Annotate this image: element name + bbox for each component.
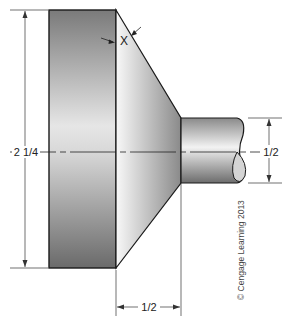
- drawing-canvas: 2 1/4 1/2 1/2 X © Cengage Learning 2013: [0, 0, 285, 323]
- angle-label: X: [120, 34, 128, 48]
- taper-section: [116, 10, 181, 268]
- break-symbol: [233, 152, 246, 182]
- shaft-diameter-label: 1/2: [263, 146, 278, 158]
- arrow-right-icon: [173, 305, 180, 310]
- large-cylinder: [49, 10, 116, 268]
- arrow-down-icon: [267, 175, 272, 182]
- taper-length-label: 1/2: [141, 301, 156, 313]
- copyright-credit: © Cengage Learning 2013: [236, 200, 246, 300]
- arrow-up-icon: [267, 119, 272, 126]
- overall-diameter-label: 2 1/4: [14, 146, 38, 158]
- arrow-up-icon: [23, 11, 28, 18]
- arrow-left-icon: [117, 305, 124, 310]
- arrow-down-icon: [23, 260, 28, 267]
